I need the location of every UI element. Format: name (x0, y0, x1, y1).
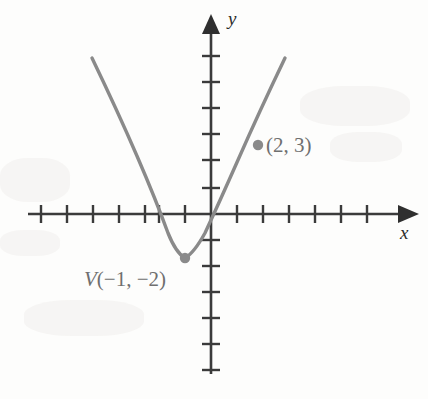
graph-canvas (0, 0, 428, 399)
point-2-3-label: (2, 3) (266, 133, 312, 158)
point-2-3-marker (253, 140, 263, 150)
x-axis-label: x (400, 222, 408, 244)
y-axis-arrow-icon (202, 14, 220, 34)
parabola-figure: y x (2, 3) V(−1, −2) (0, 0, 428, 399)
vertex-label: V(−1, −2) (84, 267, 166, 292)
parabola-curve (92, 58, 285, 258)
y-axis (202, 14, 220, 374)
vertex-label-coords: (−1, −2) (97, 267, 166, 291)
vertex-point-marker (180, 253, 190, 263)
vertex-label-prefix: V (84, 267, 97, 291)
x-axis-arrow-icon (398, 205, 419, 223)
y-axis-label: y (228, 8, 236, 30)
x-axis (28, 205, 419, 223)
